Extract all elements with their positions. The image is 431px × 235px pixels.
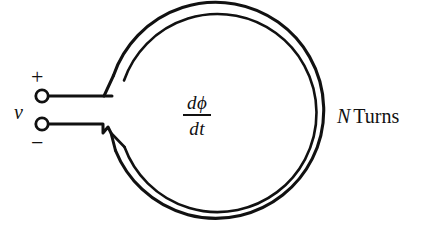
- voltage-label: v: [14, 102, 23, 122]
- flux-rate-label: dϕ dt: [183, 93, 211, 138]
- coil-inner-arc: [124, 14, 316, 212]
- turns-symbol: N: [337, 105, 353, 127]
- positive-terminal[interactable]: [36, 90, 48, 102]
- positive-polarity-label: +: [31, 66, 43, 88]
- upper-lead-wire: [48, 76, 114, 97]
- negative-terminal[interactable]: [36, 118, 48, 130]
- coil-figure: v + − NTurns dϕ dt: [0, 0, 431, 235]
- negative-polarity-label: −: [31, 132, 43, 154]
- turns-word: Turns: [353, 105, 399, 127]
- coil-outer-arc: [114, 2, 324, 218]
- lower-lead-wire: [48, 124, 116, 151]
- flux-rate-denominator: dt: [183, 116, 211, 138]
- flux-rate-numerator: dϕ: [183, 93, 211, 114]
- turns-label: NTurns: [337, 106, 399, 126]
